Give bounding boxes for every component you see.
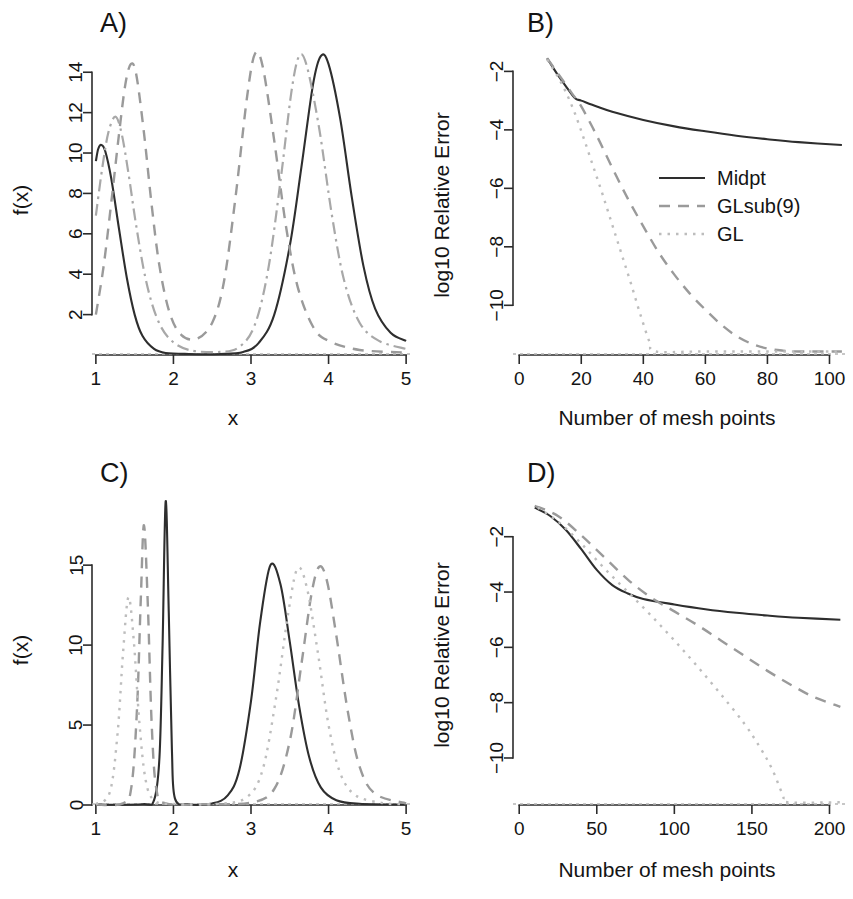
panel-b-legend: Midpt GLsub(9) GL	[659, 167, 800, 245]
legend-label-gl: GL	[717, 223, 744, 245]
ytick-label: 4	[66, 268, 87, 279]
series-glsub-9-	[96, 52, 406, 353]
ytick-label: −8	[487, 236, 508, 258]
series-midpt	[96, 54, 406, 354]
series-midpt	[535, 508, 841, 620]
panel-d-curves	[513, 506, 845, 804]
panel-c-xlabel: x	[228, 858, 239, 881]
xtick-label: 100	[658, 818, 690, 839]
xtick-label: 3	[246, 368, 257, 389]
series-midpt	[547, 58, 842, 145]
ytick-label: 2	[66, 309, 87, 320]
legend-label-midpt: Midpt	[717, 167, 766, 189]
xtick-label: 80	[757, 368, 778, 389]
panel-a-ylabel: f(x)	[9, 185, 32, 215]
ytick-label: 14	[66, 61, 87, 83]
xtick-label: 150	[736, 818, 768, 839]
panel-d-ylabel: log10 Relative Error	[430, 562, 453, 748]
ytick-label: −4	[487, 119, 508, 141]
xtick-label: 5	[401, 818, 412, 839]
series-gl	[96, 54, 406, 352]
xtick-label: 200	[814, 818, 846, 839]
panel-c-curves	[92, 501, 410, 805]
ytick-label: −6	[487, 178, 508, 200]
ytick-label: 5	[66, 720, 87, 731]
ytick-label: 6	[66, 229, 87, 240]
panel-b-ylabel: log10 Relative Error	[430, 112, 453, 298]
panel-b-tag: B)	[527, 8, 554, 38]
legend-label-glsub: GLsub(9)	[717, 195, 800, 217]
panel-a-xlabel: x	[228, 406, 239, 429]
ytick-label: 10	[66, 142, 87, 163]
panel-d-xlabel: Number of mesh points	[558, 858, 775, 881]
panel-d-plot: D) −2−4−6−8−10050100150200 Number of mes…	[427, 450, 853, 899]
panel-d-tag: D)	[527, 458, 556, 488]
ytick-label: 8	[66, 188, 87, 199]
xtick-label: 100	[814, 368, 846, 389]
xtick-label: 60	[695, 368, 716, 389]
xtick-label: 1	[91, 368, 102, 389]
panel-d: D) −2−4−6−8−10050100150200 Number of mes…	[427, 450, 853, 899]
xtick-label: 50	[586, 818, 607, 839]
series-glsub-9-	[96, 525, 406, 805]
panel-b-axes: −2−4−6−8−10020406080100	[487, 61, 846, 389]
panel-c-plot: C) 05101512345 x f(x)	[0, 450, 426, 899]
panel-b-plot: B) −2−4−6−8−10020406080100 Midpt GLsub(9…	[427, 0, 853, 450]
ytick-label: −2	[487, 61, 508, 83]
xtick-label: 4	[323, 818, 334, 839]
panel-a-curves	[92, 52, 410, 354]
panel-b: B) −2−4−6−8−10020406080100 Midpt GLsub(9…	[427, 0, 853, 450]
xtick-label: 2	[168, 818, 179, 839]
panel-a-tag: A)	[100, 8, 127, 38]
ytick-label: −4	[487, 581, 508, 603]
panel-c-tag: C)	[100, 458, 129, 488]
ytick-label: −8	[487, 692, 508, 714]
xtick-label: 0	[514, 368, 525, 389]
ytick-label: −10	[487, 289, 508, 321]
ytick-label: 12	[66, 102, 87, 123]
panel-c-axes: 05101512345	[66, 555, 412, 839]
xtick-label: 3	[246, 818, 257, 839]
xtick-label: 4	[323, 368, 334, 389]
panel-c-ylabel: f(x)	[9, 635, 32, 665]
panel-a: A) 246810121412345 x f(x)	[0, 0, 426, 450]
xtick-label: 0	[514, 818, 525, 839]
ytick-label: 15	[66, 555, 87, 576]
ytick-label: −10	[487, 742, 508, 774]
panel-b-xlabel: Number of mesh points	[558, 406, 775, 429]
xtick-label: 40	[633, 368, 654, 389]
panel-a-plot: A) 246810121412345 x f(x)	[0, 0, 426, 450]
xtick-label: 20	[571, 368, 592, 389]
xtick-label: 5	[401, 368, 412, 389]
panel-d-axes: −2−4−6−8−10050100150200	[487, 526, 846, 839]
ytick-label: −2	[487, 526, 508, 548]
xtick-label: 1	[91, 818, 102, 839]
ytick-label: 0	[66, 800, 87, 811]
panel-c: C) 05101512345 x f(x)	[0, 450, 426, 899]
ytick-label: −6	[487, 637, 508, 659]
ytick-label: 10	[66, 635, 87, 656]
figure-panel-grid: A) 246810121412345 x f(x) B) −2−4−6−8−10…	[0, 0, 853, 899]
xtick-label: 2	[168, 368, 179, 389]
